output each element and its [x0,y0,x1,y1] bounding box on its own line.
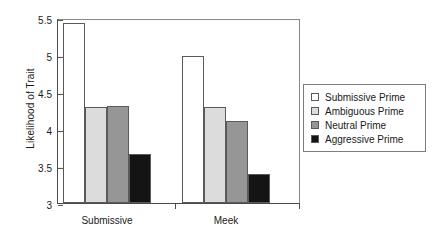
bar [226,121,248,203]
bar [129,154,151,203]
y-axis-tick-label: 5 [46,52,58,63]
bars-layer [58,20,299,203]
bar [107,106,129,203]
y-axis-title: Likelihood of Trait [25,34,36,184]
bar [85,107,107,203]
x-axis-tick-mark [299,203,300,209]
legend-label: Aggressive Prime [325,134,403,145]
legend-item: Ambiguous Prime [311,104,419,118]
legend-label: Ambiguous Prime [325,106,404,117]
legend: Submissive PrimeAmbiguous PrimeNeutral P… [303,84,426,152]
legend-swatch-icon [311,107,319,115]
legend-swatch-icon [311,121,319,129]
bar-chart-figure: Likelihood of Trait 33.544.555.5 Submiss… [0,0,435,242]
y-axis-tick-label: 4 [46,126,58,137]
y-axis-tick-label: 5.5 [38,15,58,26]
bar [204,107,226,203]
bar [63,23,85,203]
y-axis-tick-label: 3.5 [38,163,58,174]
y-axis-tick-mark [58,204,63,205]
y-axis-tick-label: 4.5 [38,89,58,100]
legend-item: Submissive Prime [311,90,419,104]
legend-item: Neutral Prime [311,118,419,132]
plot-area: 33.544.555.5 SubmissiveMeek [57,19,300,204]
bar [248,174,270,203]
legend-label: Submissive Prime [325,92,405,103]
y-axis-tick-label: 3 [46,200,58,211]
bar-group [63,20,151,203]
x-axis-label: Submissive [81,215,132,226]
legend-label: Neutral Prime [325,120,386,131]
legend-swatch-icon [311,93,319,101]
bar [182,56,204,203]
bar-group [182,20,270,203]
x-axis-label: Meek [214,215,238,226]
legend-swatch-icon [311,135,319,143]
x-axis-tick-mark [175,203,176,209]
legend-item: Aggressive Prime [311,132,419,146]
